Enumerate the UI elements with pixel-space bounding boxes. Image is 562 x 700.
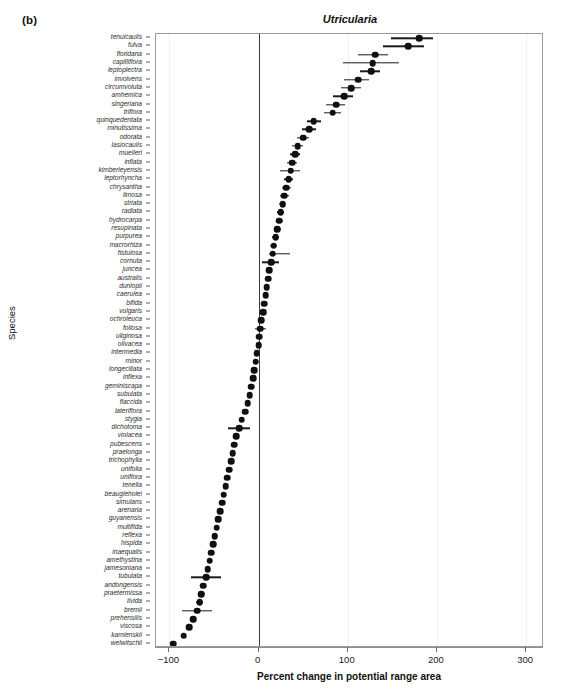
x-axis-line — [155, 647, 543, 648]
data-point-row — [156, 598, 542, 606]
data-point-marker — [261, 300, 268, 307]
y-axis-tick-label: fistulosa — [118, 250, 142, 257]
y-axis-tick-label: caerulea — [117, 291, 142, 298]
y-axis-tick-label: inflexa — [123, 374, 142, 381]
data-point-marker — [208, 549, 215, 556]
y-axis-tick-label: leptoplectra — [108, 67, 142, 74]
data-point-marker — [194, 607, 201, 614]
y-axis-tick — [146, 103, 150, 104]
data-point-row — [156, 333, 542, 341]
y-axis-tick — [146, 559, 150, 560]
data-point-marker — [242, 408, 249, 415]
y-axis-tick — [146, 385, 150, 386]
y-axis-tick — [146, 319, 150, 320]
data-point-row — [156, 308, 542, 316]
y-axis-tick-label: arenaria — [118, 507, 142, 514]
y-axis-tick — [146, 203, 150, 204]
data-point-marker — [260, 309, 267, 316]
data-point-row — [156, 499, 542, 507]
y-axis-tick-label: stygia — [125, 416, 142, 423]
data-point-marker — [253, 358, 260, 365]
x-axis-tick-label: 200 — [428, 654, 444, 665]
y-axis-tick-label: ochroleuca — [110, 316, 142, 323]
x-axis-tick-label: 100 — [339, 654, 355, 665]
data-point-row — [156, 84, 542, 92]
data-point-marker — [256, 334, 263, 341]
data-point-row — [156, 482, 542, 490]
data-point-row — [156, 208, 542, 216]
y-axis-labels: tenuicaulisfulvafloridanacapillifloralep… — [0, 33, 150, 647]
data-point-marker — [272, 234, 279, 241]
data-point-marker — [186, 624, 193, 631]
y-axis-tick — [146, 344, 150, 345]
data-point-row — [156, 623, 542, 631]
data-point-marker — [206, 558, 213, 565]
data-point-row — [156, 590, 542, 598]
y-axis-tick-label: andongensis — [105, 581, 142, 588]
y-axis-tick-label: uniflora — [120, 474, 142, 481]
y-axis-tick-label: pubescens — [110, 440, 142, 447]
y-axis-tick — [146, 252, 150, 253]
data-point-row — [156, 341, 542, 349]
data-point-marker — [283, 184, 290, 191]
data-point-marker — [222, 483, 229, 490]
y-axis-tick-label: tenuicaulis — [111, 34, 142, 41]
data-point-marker — [372, 51, 379, 58]
y-axis-tick-label: simulans — [116, 499, 142, 506]
y-axis-tick-label: vulgaris — [119, 308, 142, 315]
data-point-row — [156, 457, 542, 465]
data-point-marker — [217, 508, 224, 515]
data-point-marker — [278, 209, 285, 216]
data-point-row — [156, 225, 542, 233]
data-point-marker — [416, 35, 423, 42]
y-axis-tick — [146, 360, 150, 361]
data-point-marker — [276, 217, 283, 224]
data-point-marker — [281, 193, 288, 200]
data-point-row — [156, 250, 542, 258]
data-point-row — [156, 67, 542, 75]
data-point-marker — [341, 93, 348, 100]
data-point-row — [156, 549, 542, 557]
y-axis-tick — [146, 161, 150, 162]
y-axis-tick-label: minutissima — [107, 125, 142, 132]
y-axis-tick-label: intermedia — [111, 349, 142, 356]
y-axis-tick-label: multifida — [117, 523, 142, 530]
y-axis-tick — [146, 443, 150, 444]
data-point-marker — [263, 284, 270, 291]
data-point-row — [156, 449, 542, 457]
data-point-row — [156, 615, 542, 623]
data-point-row — [156, 51, 542, 59]
y-axis-tick — [146, 468, 150, 469]
y-axis-tick-label: odorata — [120, 133, 142, 140]
y-axis-tick — [146, 153, 150, 154]
data-point-marker — [204, 566, 211, 573]
y-axis-tick-label: olivacea — [118, 341, 142, 348]
y-axis-tick — [146, 194, 150, 195]
y-axis-tick-label: bremii — [124, 606, 142, 613]
y-axis-tick — [146, 551, 150, 552]
y-axis-tick — [146, 261, 150, 262]
data-point-marker — [228, 458, 235, 465]
data-point-row — [156, 325, 542, 333]
data-point-row — [156, 142, 542, 150]
data-point-row — [156, 349, 542, 357]
y-axis-tick — [146, 493, 150, 494]
x-axis-tick — [258, 647, 259, 652]
y-axis-tick — [146, 178, 150, 179]
y-axis-tick — [146, 310, 150, 311]
y-axis-tick — [146, 617, 150, 618]
x-axis-tick-label: 300 — [517, 654, 533, 665]
data-point-row — [156, 391, 542, 399]
y-axis-tick-label: minor — [126, 357, 143, 364]
y-axis-tick — [146, 568, 150, 569]
y-axis-tick — [146, 526, 150, 527]
data-point-row — [156, 266, 542, 274]
y-axis-tick — [146, 286, 150, 287]
y-axis-tick-label: livida — [127, 598, 142, 605]
data-point-row — [156, 109, 542, 117]
y-axis-tick — [146, 70, 150, 71]
y-axis-tick — [146, 269, 150, 270]
y-axis-tick-label: fulva — [128, 42, 142, 49]
y-axis-tick-label: reflexa — [122, 532, 142, 539]
y-axis-tick — [146, 460, 150, 461]
